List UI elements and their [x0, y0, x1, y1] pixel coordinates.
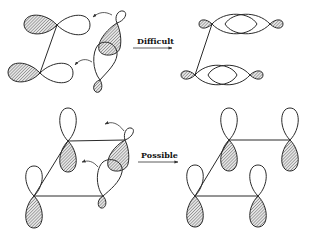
orbital-diagram: Difficult Possi: [0, 0, 311, 236]
sigma-bond: [195, 24, 212, 75]
hatched-lobe: [250, 71, 263, 79]
open-lobe: [124, 128, 133, 140]
open-lobe: [282, 108, 299, 140]
open-lobe: [212, 14, 257, 34]
hatched-lobe: [187, 196, 204, 227]
open-lobe: [26, 166, 43, 196]
hatched-lobe: [24, 15, 57, 34]
hatched-lobe: [199, 20, 212, 28]
open-lobe: [57, 15, 90, 35]
open-lobe: [187, 165, 204, 196]
bottom-left-panel: [26, 108, 134, 228]
hatched-lobe: [99, 23, 121, 55]
hatched-lobe: [8, 63, 40, 82]
approach-arrow: [93, 13, 112, 17]
open-lobe: [250, 165, 267, 196]
difficult-transition: Difficult: [133, 36, 174, 48]
possible-label: Possible: [141, 150, 178, 160]
hatched-lobe: [270, 20, 283, 28]
difficult-label: Difficult: [137, 36, 174, 46]
top-left-panel: [8, 11, 126, 92]
sigma-bond: [68, 140, 125, 141]
open-lobe: [225, 14, 270, 34]
hatched-lobe: [250, 196, 267, 227]
open-lobe: [195, 65, 237, 85]
hatched-lobe: [60, 141, 77, 172]
open-lobe: [221, 108, 238, 140]
approach-arrow: [82, 161, 98, 167]
approach-arrow: [105, 123, 124, 131]
open-lobe: [60, 108, 77, 141]
hatched-lobe: [26, 196, 43, 228]
hatched-lobe: [108, 140, 129, 171]
top-right-panel: [181, 14, 283, 85]
approach-arrow: [75, 60, 92, 65]
possible-transition: Possible: [138, 150, 178, 162]
hatched-lobe: [94, 80, 102, 92]
hatched-lobe: [98, 196, 106, 208]
hatched-lobe: [181, 71, 195, 79]
open-lobe: [208, 65, 250, 85]
hatched-lobe: [282, 140, 299, 171]
open-lobe: [116, 11, 126, 23]
hatched-lobe: [221, 140, 238, 171]
open-lobe: [40, 63, 73, 83]
bottom-right-panel: [187, 108, 299, 227]
